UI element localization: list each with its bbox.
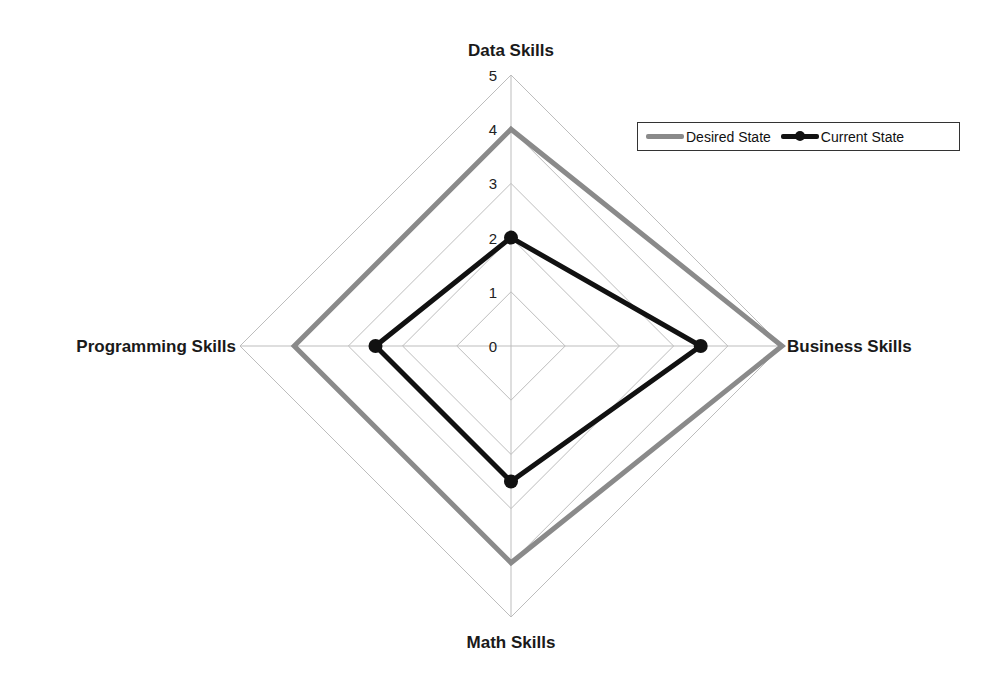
tick-label: 0: [489, 338, 497, 355]
legend: Desired State Current State: [637, 122, 960, 151]
data-point: [504, 231, 518, 245]
data-point: [694, 339, 708, 353]
legend-swatch-current: [781, 134, 819, 139]
legend-label-current: Current State: [821, 129, 904, 145]
category-label: Data Skills: [468, 41, 554, 60]
tick-label: 3: [489, 175, 497, 192]
tick-label: 4: [489, 121, 497, 138]
tick-label: 2: [489, 230, 497, 247]
category-label: Math Skills: [467, 633, 556, 652]
series-current-state: [376, 238, 701, 482]
legend-item-desired: Desired State: [646, 129, 771, 145]
legend-swatch-desired: [646, 134, 684, 139]
legend-item-current: Current State: [781, 129, 904, 145]
category-label: Business Skills: [787, 337, 912, 356]
radar-chart: 012345Data SkillsBusiness SkillsMath Ski…: [0, 0, 992, 678]
legend-label-desired: Desired State: [686, 129, 771, 145]
tick-label: 5: [489, 67, 497, 84]
category-label: Programming Skills: [76, 337, 236, 356]
tick-label: 1: [489, 284, 497, 301]
data-point: [504, 475, 518, 489]
data-point: [369, 339, 383, 353]
